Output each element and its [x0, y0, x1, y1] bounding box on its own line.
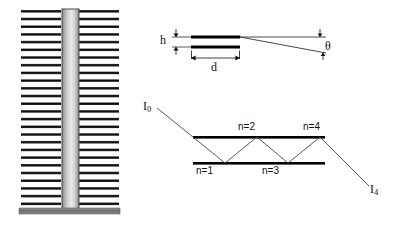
fin — [79, 72, 119, 75]
fin — [21, 164, 61, 167]
fin — [79, 141, 119, 144]
fin — [79, 118, 119, 121]
fin — [21, 149, 61, 152]
central-post — [62, 9, 79, 212]
fin — [21, 95, 61, 98]
diverging-ray-line — [240, 37, 326, 53]
fin — [79, 64, 119, 67]
bounce-path — [193, 137, 320, 163]
thin-film-geometry — [172, 29, 326, 60]
fin — [79, 149, 119, 152]
fin — [21, 49, 61, 52]
fin — [79, 33, 119, 36]
base-bar — [19, 208, 120, 214]
fin — [21, 25, 61, 28]
fin — [79, 126, 119, 129]
fin — [21, 156, 61, 159]
fin — [79, 110, 119, 113]
fin — [21, 110, 61, 113]
figure-root: h d θ I0 I4 n=1 n=2 n=3 n=4 — [0, 0, 399, 226]
fin — [79, 25, 119, 28]
fin — [79, 10, 119, 13]
fin — [79, 102, 119, 105]
fin — [21, 187, 61, 190]
label-bounce-n4: n=4 — [303, 122, 320, 132]
fin — [79, 203, 119, 206]
upper-plate — [191, 36, 240, 39]
fins-right-group — [79, 10, 119, 205]
fin — [79, 187, 119, 190]
fin — [21, 118, 61, 121]
fins-left-group — [21, 10, 61, 205]
figure-canvas — [0, 0, 399, 226]
label-bounce-n1: n=1 — [196, 166, 213, 176]
fin — [79, 49, 119, 52]
fin — [21, 133, 61, 136]
fin — [79, 18, 119, 21]
fin — [21, 10, 61, 13]
fin — [21, 195, 61, 198]
lower-plate — [191, 46, 240, 49]
fin — [21, 102, 61, 105]
fin — [79, 87, 119, 90]
fin — [79, 133, 119, 136]
label-d: d — [211, 61, 217, 73]
fin — [21, 87, 61, 90]
fin — [79, 195, 119, 198]
fin — [79, 95, 119, 98]
label-incident-intensity-subscript: 0 — [147, 104, 151, 114]
fin — [79, 56, 119, 59]
fin — [21, 33, 61, 36]
fin — [79, 156, 119, 159]
fin — [21, 18, 61, 21]
fin — [21, 79, 61, 82]
fin-stack-structure — [19, 9, 120, 214]
label-h: h — [160, 34, 166, 46]
fin — [79, 79, 119, 82]
label-bounce-n2: n=2 — [238, 122, 255, 132]
fin — [21, 179, 61, 182]
label-incident-intensity: I0 — [143, 100, 151, 114]
fin — [21, 172, 61, 175]
incident-ray — [157, 108, 193, 137]
fin — [21, 41, 61, 44]
fin — [79, 172, 119, 175]
fin — [79, 179, 119, 182]
label-exit-intensity: I4 — [370, 183, 378, 197]
fin — [79, 164, 119, 167]
fin — [79, 41, 119, 44]
fin — [21, 64, 61, 67]
fin — [21, 126, 61, 129]
exit-ray — [320, 137, 369, 186]
fin — [21, 141, 61, 144]
fin — [21, 203, 61, 206]
label-exit-intensity-subscript: 4 — [374, 187, 378, 197]
fin — [21, 56, 61, 59]
label-bounce-n3: n=3 — [262, 166, 279, 176]
fin — [21, 72, 61, 75]
label-theta: θ — [325, 40, 331, 52]
